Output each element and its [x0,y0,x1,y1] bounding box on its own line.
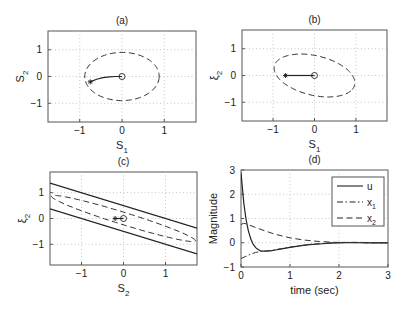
subplot-title: (c) [118,156,130,167]
y-tick-label: 1 [38,187,44,198]
x-tick-label: 0 [119,125,125,136]
y-tick-label: 1 [229,213,235,224]
y-tick-label: 1 [36,44,42,55]
x-tick-label: −1 [267,124,279,135]
y-axis-label: ξ2 [208,70,224,80]
y-tick-label: 2 [229,189,235,200]
y-tick-label: −1 [225,97,237,108]
x-tick-label: −1 [76,268,88,279]
y-axis-label: ξ2 [16,213,32,223]
x-axis-label: time (sec) [290,284,338,296]
y-tick-label: 1 [230,43,236,54]
x-tick-label: 1 [287,270,293,281]
x-tick-label: 0 [312,124,318,135]
legend-label-u: u [367,181,373,192]
x-axis-label: S2 [118,282,130,298]
y-axis-label: Magnitude [207,193,219,244]
marker-initial-state [88,79,93,84]
y-tick-label: 0 [229,237,235,248]
subplot-a: −101−101(a)S1S2 [14,15,196,155]
x-tick-label: 2 [336,270,342,281]
marker-initial-state [283,73,288,78]
x-tick-label: 1 [353,124,359,135]
y-tick-label: 0 [36,71,42,82]
x-tick-label: 0 [121,268,127,279]
subplot-d: 0123−10123(d)time (sec)Magnitudeux1x2 [207,154,391,296]
subplot-title: (d) [308,154,320,165]
figure: −101−101(a)S1S2−101−101(b)S1ξ2−101−101(c… [0,0,404,309]
marker-initial-state [113,216,118,221]
subplot-title: (b) [308,14,320,25]
legend: ux1x2 [332,177,384,226]
x-axis-label: S1 [309,138,321,154]
x-tick-label: 3 [385,270,391,281]
subplot-b: −101−101(b)S1ξ2 [208,14,387,154]
y-tick-label: −1 [224,262,236,273]
x-tick-label: 1 [162,125,168,136]
x-axis-label: S1 [116,139,128,155]
subplot-title: (a) [116,15,128,26]
x-tick-label: 0 [238,270,244,281]
y-tick-label: −1 [33,239,45,250]
y-tick-label: −1 [31,98,43,109]
y-axis-label: S2 [14,70,30,82]
x-tick-label: −1 [74,125,86,136]
subplot-c: −101−101(c)S2ξ2 [16,156,197,298]
y-tick-label: 0 [230,70,236,81]
y-tick-label: 3 [229,165,235,176]
y-tick-label: 0 [38,213,44,224]
x-tick-label: 1 [163,268,169,279]
